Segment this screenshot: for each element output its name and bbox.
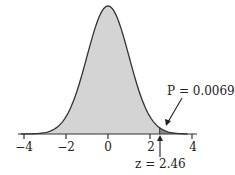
p-arrow-head <box>165 119 171 126</box>
tick-label-0: 0 <box>104 140 112 154</box>
p-arrow-shaft <box>168 98 182 122</box>
x-axis-ticks <box>24 134 192 139</box>
normal-curve-chart: −4 −2 0 2 4 P = 0.0069 z = 2.46 <box>0 0 235 175</box>
p-value-label: P = 0.0069 <box>167 84 235 98</box>
tick-label-neg2: −2 <box>57 140 75 154</box>
z-value-label: z = 2.46 <box>135 157 186 171</box>
z-arrow-head <box>157 135 163 141</box>
tick-label-2: 2 <box>147 140 155 154</box>
curve-body-fill <box>21 6 188 134</box>
tick-label-4: 4 <box>189 140 197 154</box>
tick-label-neg4: −4 <box>15 140 33 154</box>
